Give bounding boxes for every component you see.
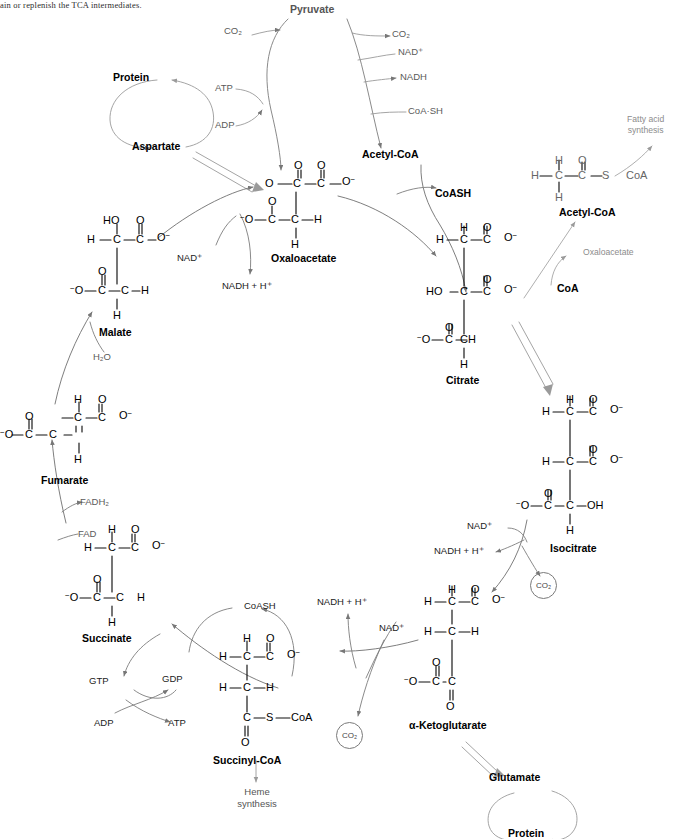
atom-citrate-o-mid: O (483, 274, 492, 285)
atom-fumarate-o-left-top: O (25, 411, 34, 422)
atom-succinate-o-top: O (131, 524, 140, 535)
atom-akg-c4: C (432, 676, 440, 687)
atom-succinate-c4: C (116, 592, 124, 603)
label-succinate[interactable]: Succinate (82, 633, 132, 644)
cofactor-nad-plus-kgdh: NAD⁺ (379, 623, 404, 633)
atom-citrate-h-top: H (460, 222, 468, 233)
note-fatty-acid-synthesis-line1: Fatty acid (627, 114, 664, 124)
label-glutamate[interactable]: Glutamate (489, 772, 540, 783)
atom-isocit-h-left1: H (542, 406, 550, 417)
atom-acoa-h-top: H (555, 155, 563, 166)
label-citrate[interactable]: Citrate (446, 375, 479, 386)
label-isocitrate[interactable]: Isocitrate (550, 543, 597, 554)
atom-akg-minus-o: −O (404, 676, 417, 687)
atom-succoa-c1: C (243, 651, 251, 662)
atom-isocit-h-top: H (566, 394, 574, 405)
note-fatty-acid-synthesis-line2: synthesis (628, 125, 664, 135)
atom-succinate-c3: C (93, 592, 101, 603)
atom-succinate-minus-o: −O (65, 592, 78, 603)
atom-akg-c2: C (471, 596, 479, 607)
atom-isocit-c3: C (566, 456, 574, 467)
page-top-caption: ain or replenish the TCA intermediates. (0, 1, 142, 10)
atom-succinate-c2: C (131, 542, 139, 553)
atom-acoa-h-left: H (531, 170, 539, 181)
atom-citrate-minus-o: −O (417, 334, 430, 345)
label-coa[interactable]: CoA (557, 283, 579, 294)
cofactor-fad: FAD (78, 529, 96, 539)
label-oxaloacetate[interactable]: Oxaloacetate (271, 253, 336, 264)
atom-isocit-c6: C (566, 500, 574, 511)
atom-citrate-c3: C (460, 286, 468, 297)
atom-fumarate-c4: C (49, 429, 57, 440)
cofactor-h2o-fumarase: H₂O (93, 352, 111, 362)
note-heme-synthesis-line2: synthesis (237, 798, 277, 809)
atom-isocit-o-minus2: O− (610, 454, 623, 465)
atom-akg-o-mid: O (432, 657, 441, 668)
atom-isocit-c5: C (544, 500, 552, 511)
atom-citrate-c2: C (483, 234, 491, 245)
label-acetyl-coa-side[interactable]: Acetyl-CoA (559, 207, 616, 218)
atom-acoa-c2: C (578, 170, 586, 181)
atom-succoa-o-minus: O− (287, 649, 300, 660)
atom-akg-c5: C (448, 676, 456, 687)
atom-isocit-h-left2: H (542, 456, 550, 467)
atom-succoa-o-bottom: O (241, 737, 250, 748)
cofactor-atp-nk: ATP (168, 718, 186, 728)
atom-acoa-h-bottom: H (555, 192, 563, 203)
atom-akg-h-right: H (471, 626, 479, 637)
atom-oxaloacetate-h-bottom: H (291, 239, 299, 250)
cofactor-nadh-h-idh: NADH + H⁺ (434, 546, 484, 556)
label-acetyl-coa-main[interactable]: Acetyl-CoA (362, 149, 419, 160)
atom-malate-h-bottom: H (113, 310, 121, 321)
note-heme-synthesis-line1: Heme (244, 786, 269, 797)
label-protein-bottom[interactable]: Protein (508, 828, 544, 839)
cofactor-gtp: GTP (89, 676, 109, 686)
atom-akg-o-bottom: O (446, 701, 455, 712)
atom-citrate-h-bottom: H (460, 359, 468, 370)
atom-fumarate-h-bottom: H (74, 454, 82, 465)
label-malate[interactable]: Malate (99, 327, 132, 338)
label-aspartate[interactable]: Aspartate (132, 141, 180, 152)
atom-oxaloacetate-h-right: H (314, 214, 322, 225)
atom-citrate-o-minus2: O− (504, 284, 517, 295)
cofactor-nad-plus-idh: NAD⁺ (467, 521, 492, 531)
label-pyruvate[interactable]: Pyruvate (290, 4, 334, 15)
atom-malate-h-right: H (141, 285, 149, 296)
atom-succoa-c2: C (266, 651, 274, 662)
atom-malate-ho: HO (103, 215, 120, 226)
atom-fumarate-minus-o: −O (0, 429, 13, 440)
atom-isocit-h-bottom: H (566, 525, 574, 536)
atom-malate-c1: C (113, 234, 121, 245)
atom-akg-h-left2: H (424, 626, 432, 637)
atom-succoa-s: S (266, 712, 273, 723)
atom-succoa-c3: C (243, 682, 251, 693)
atom-succinate-o-mid: O (93, 574, 102, 585)
atom-malate-o-minus: O− (157, 232, 170, 243)
cofactor-gdp: GDP (162, 674, 183, 684)
label-alpha-ketoglutarate[interactable]: α-Ketoglutarate (409, 720, 487, 731)
atom-fumarate-h-top: H (74, 394, 82, 405)
atom-isocit-c2: C (589, 406, 597, 417)
label-coash-succinyl: CoASH (244, 601, 276, 611)
atom-succoa-h-left1: H (219, 651, 227, 662)
atom-oxaloacetate-c2: C (317, 178, 325, 189)
atom-akg-o-top: O (471, 584, 480, 595)
atom-citrate-o-minus1: O− (504, 232, 517, 243)
atom-succoa-o-top: O (266, 633, 275, 644)
atom-isocit-c1: C (566, 406, 574, 417)
cofactor-nadh-pdh: NADH (400, 72, 427, 82)
label-fumarate[interactable]: Fumarate (41, 475, 88, 486)
atom-succoa-h-right: H (266, 682, 274, 693)
atom-akg-c1: C (448, 596, 456, 607)
atom-citrate-c6: C (460, 334, 468, 345)
atom-fumarate-c3: C (25, 429, 33, 440)
atom-isocit-c4: C (589, 456, 597, 467)
badge-co2-kgdh: CO₂ (336, 722, 363, 749)
atom-citrate-ho: HO (426, 286, 443, 297)
label-succinyl-coa[interactable]: Succinyl-CoA (213, 755, 281, 766)
label-protein-top[interactable]: Protein (113, 72, 149, 83)
atom-oxaloacetate-o-minus-right: O− (342, 176, 355, 187)
tca-cycle-diagram: ain or replenish the TCA intermediates. (0, 0, 692, 839)
atom-succinate-c1: C (108, 542, 116, 553)
atom-isocit-o-top: O (589, 394, 598, 405)
